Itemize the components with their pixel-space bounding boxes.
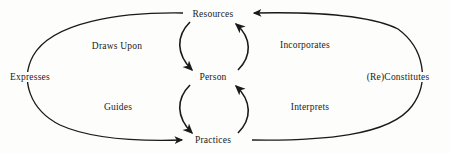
node-practices: Practices bbox=[193, 135, 233, 145]
edge-label-guides: Guides bbox=[104, 102, 132, 112]
edge-path-incorporates bbox=[236, 24, 248, 70]
edge-label-re-constitutes: (Re)Constitutes bbox=[366, 72, 431, 82]
diagram-canvas: Resources Person Practices Draws Upon In… bbox=[0, 0, 450, 153]
node-resources: Resources bbox=[191, 9, 236, 19]
edge-label-draws-upon: Draws Upon bbox=[92, 41, 142, 51]
edge-path-interprets bbox=[236, 86, 248, 133]
node-person: Person bbox=[197, 72, 228, 82]
edge-label-expresses: Expresses bbox=[9, 72, 51, 82]
edge-label-interprets: Interprets bbox=[291, 102, 329, 112]
edge-path-guides bbox=[180, 85, 192, 133]
edge-path-draws-upon bbox=[180, 22, 192, 70]
edge-label-incorporates: Incorporates bbox=[280, 40, 330, 50]
